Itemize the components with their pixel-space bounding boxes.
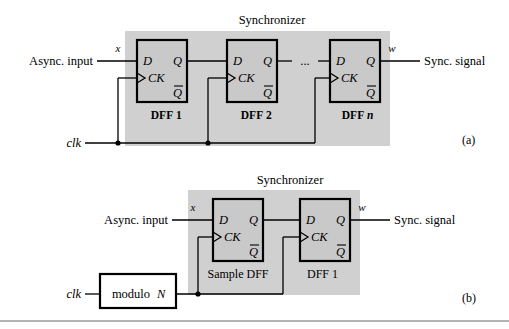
dff-name-b-sample: Sample DFF — [207, 267, 268, 281]
panel-caption-a: (a) — [462, 133, 475, 147]
dff-name-b-1: DFF — [307, 267, 329, 281]
pin-d-a-n: D — [335, 54, 345, 68]
pin-qbar-a-2: Q — [263, 86, 272, 100]
pin-d-a-2: D — [232, 54, 242, 68]
pin-qbar-b-sample: Q — [249, 245, 258, 259]
pin-ck-a-2: CK — [238, 71, 255, 85]
panel-caption-b: (b) — [462, 291, 476, 305]
clk-junction-a-1 — [115, 140, 120, 145]
synchronizer-label-b: Synchronizer — [257, 173, 324, 187]
sync-signal-label-b: Sync. signal — [394, 213, 456, 227]
pin-q-a-2: Q — [263, 54, 272, 68]
clk-label-b: clk — [66, 287, 81, 301]
dff-index-b-1: 1 — [332, 267, 338, 281]
signal-x-label-a: x — [115, 42, 121, 54]
dff-name-a-2: DFF — [241, 109, 263, 121]
pin-q-a-n: Q — [366, 54, 375, 68]
ellipsis-a: ... — [300, 54, 309, 68]
dff-index-a-2: 2 — [266, 109, 272, 121]
pin-d-b-1: D — [305, 213, 315, 227]
async-input-label-b: Async. input — [104, 213, 168, 227]
pin-qbar-a-1: Q — [173, 86, 182, 100]
clk-junction-b-sample — [195, 291, 200, 296]
synchronizer-label-a: Synchronizer — [239, 13, 306, 27]
pin-d-b-sample: D — [218, 213, 228, 227]
pin-ck-a-1: CK — [148, 71, 165, 85]
signal-w-label-b: w — [358, 201, 366, 213]
dff-name-a-n: DFF — [342, 109, 364, 121]
pin-q-a-1: Q — [173, 54, 182, 68]
figure-container: Synchronizer Async. input x D Q CK Q DFF… — [0, 0, 509, 329]
panel-b: Synchronizer Async. input x D Q CK Q Sam… — [66, 173, 476, 308]
pin-qbar-a-n: Q — [366, 86, 375, 100]
async-input-label-a: Async. input — [29, 54, 93, 68]
pin-q-b-1: Q — [336, 213, 345, 227]
dff-index-a-1: 1 — [176, 109, 182, 121]
modulo-label: modulo — [112, 287, 150, 301]
panel-a: Synchronizer Async. input x D Q CK Q DFF… — [29, 13, 486, 150]
clk-label-a: clk — [66, 136, 81, 150]
dff-name-a-1: DFF — [151, 109, 173, 121]
pin-d-a-1: D — [142, 54, 152, 68]
pin-q-b-sample: Q — [249, 213, 258, 227]
signal-w-label-a: w — [388, 42, 396, 54]
pin-qbar-b-1: Q — [336, 245, 345, 259]
signal-x-label-b: x — [190, 201, 196, 213]
pin-ck-b-sample: CK — [224, 230, 241, 244]
sync-signal-label-a: Sync. signal — [424, 54, 486, 68]
clk-junction-a-2 — [205, 140, 210, 145]
dff-index-a-n: n — [367, 109, 373, 121]
modulo-n-value: N — [156, 287, 166, 301]
circuit-diagram-canvas: Synchronizer Async. input x D Q CK Q DFF… — [0, 0, 509, 329]
pin-ck-a-n: CK — [341, 71, 358, 85]
pin-ck-b-1: CK — [311, 230, 328, 244]
